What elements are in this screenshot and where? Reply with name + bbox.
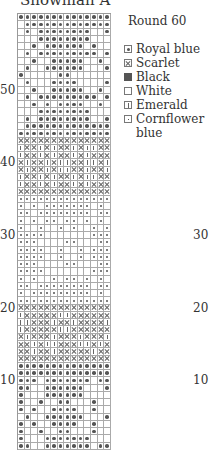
stitch-white xyxy=(104,87,111,94)
stitch-royal-blue xyxy=(104,50,111,57)
stitch-royal-blue xyxy=(45,435,52,442)
stitch-white xyxy=(51,261,58,268)
stitch-cornflower-blue xyxy=(45,283,52,290)
stitch-cornflower-blue xyxy=(78,290,85,297)
stitch-emerald xyxy=(64,312,71,319)
stitch-cornflower-blue xyxy=(31,203,38,210)
stitch-royal-blue xyxy=(45,101,52,108)
legend-label: Cornflower blue xyxy=(136,112,206,140)
stitch-royal-blue xyxy=(31,130,38,137)
stitch-white xyxy=(31,435,38,442)
stitch-cornflower-blue xyxy=(18,225,25,232)
stitch-emerald xyxy=(71,145,78,152)
stitch-royal-blue xyxy=(84,377,91,384)
stitch-royal-blue xyxy=(91,50,98,57)
stitch-royal-blue xyxy=(45,50,52,57)
stitch-royal-blue xyxy=(58,123,65,130)
stitch-white xyxy=(104,399,111,406)
stitch-scarlet xyxy=(64,181,71,188)
stitch-white xyxy=(25,217,32,224)
stitch-white xyxy=(91,276,98,283)
stitch-white xyxy=(91,36,98,43)
stitch-scarlet xyxy=(51,356,58,363)
stitch-cornflower-blue xyxy=(18,254,25,261)
stitch-emerald xyxy=(58,312,65,319)
stitch-cornflower-blue xyxy=(98,203,105,210)
stitch-scarlet xyxy=(104,326,111,333)
stitch-white xyxy=(78,232,85,239)
stitch-cornflower-blue xyxy=(38,254,45,261)
white-swatch-icon xyxy=(124,87,132,95)
stitch-scarlet xyxy=(25,348,32,355)
stitch-cornflower-blue xyxy=(98,254,105,261)
stitch-white xyxy=(51,428,58,435)
stitch-royal-blue xyxy=(64,392,71,399)
stitch-royal-blue xyxy=(38,428,45,435)
stitch-royal-blue xyxy=(18,406,25,413)
stitch-scarlet xyxy=(104,145,111,152)
stitch-scarlet xyxy=(104,174,111,181)
stitch-white xyxy=(104,36,111,43)
legend-label: Scarlet xyxy=(136,56,206,70)
stitch-scarlet xyxy=(51,159,58,166)
stitch-royal-blue xyxy=(51,443,58,450)
stitch-cornflower-blue xyxy=(71,283,78,290)
stitch-white xyxy=(91,87,98,94)
stitch-scarlet xyxy=(45,326,52,333)
stitch-scarlet xyxy=(84,334,91,341)
stitch-cornflower-blue xyxy=(51,276,58,283)
stitch-cornflower-blue xyxy=(58,225,65,232)
stitch-white xyxy=(25,225,32,232)
row-label: 40 xyxy=(0,155,16,169)
stitch-royal-blue xyxy=(78,443,85,450)
stitch-cornflower-blue xyxy=(25,261,32,268)
stitch-cornflower-blue xyxy=(38,247,45,254)
stitch-white xyxy=(45,225,52,232)
stitch-royal-blue xyxy=(18,370,25,377)
stitch-emerald xyxy=(51,334,58,341)
stitch-cornflower-blue xyxy=(31,261,38,268)
stitch-cornflower-blue xyxy=(84,217,91,224)
stitch-royal-blue xyxy=(25,50,32,57)
stitch-white xyxy=(84,392,91,399)
stitch-royal-blue xyxy=(58,130,65,137)
stitch-royal-blue xyxy=(51,377,58,384)
stitch-scarlet xyxy=(104,341,111,348)
stitch-white xyxy=(38,203,45,210)
stitch-royal-blue xyxy=(45,116,52,123)
stitch-white xyxy=(31,29,38,36)
stitch-white xyxy=(45,421,52,428)
stitch-white xyxy=(98,50,105,57)
stitch-emerald xyxy=(64,326,71,333)
stitch-white xyxy=(45,428,52,435)
stitch-royal-blue xyxy=(58,399,65,406)
stitch-scarlet xyxy=(78,174,85,181)
stitch-royal-blue xyxy=(25,116,32,123)
stitch-white xyxy=(38,101,45,108)
stitch-white xyxy=(18,65,25,72)
stitch-emerald xyxy=(31,348,38,355)
stitch-white xyxy=(91,385,98,392)
stitch-white xyxy=(104,290,111,297)
stitch-white xyxy=(104,72,111,79)
stitch-cornflower-blue xyxy=(64,196,71,203)
stitch-royal-blue xyxy=(78,370,85,377)
stitch-royal-blue xyxy=(25,130,32,137)
stitch-royal-blue xyxy=(91,406,98,413)
stitch-scarlet xyxy=(64,356,71,363)
stitch-royal-blue xyxy=(45,65,52,72)
stitch-royal-blue xyxy=(18,72,25,79)
stitch-royal-blue xyxy=(51,435,58,442)
stitch-white xyxy=(98,435,105,442)
stitch-scarlet xyxy=(64,174,71,181)
stitch-scarlet xyxy=(45,181,52,188)
stitch-white xyxy=(51,239,58,246)
stitch-scarlet xyxy=(31,312,38,319)
stitch-royal-blue xyxy=(18,363,25,370)
stitch-royal-blue xyxy=(31,58,38,65)
stitch-cornflower-blue xyxy=(91,297,98,304)
stitch-royal-blue xyxy=(71,58,78,65)
stitch-scarlet xyxy=(91,152,98,159)
stitch-royal-blue xyxy=(64,370,71,377)
stitch-white xyxy=(25,290,32,297)
